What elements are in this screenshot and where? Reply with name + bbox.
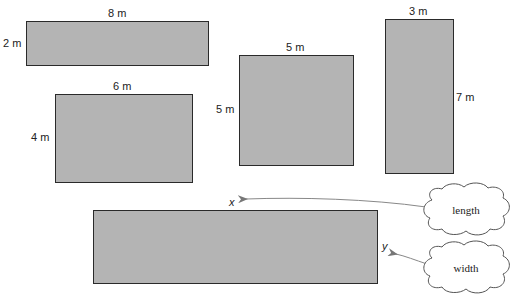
- annotation-layer: [0, 0, 516, 298]
- length-arrow: [246, 198, 426, 207]
- length-cloud-label: length: [423, 204, 509, 216]
- width-cloud-label: width: [423, 262, 509, 274]
